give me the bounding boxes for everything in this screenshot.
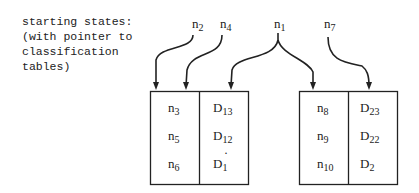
table1-class-cell: D12 — [213, 128, 232, 145]
table2-state-cell: n9 — [317, 128, 329, 145]
table2-class-cell: D22 — [360, 128, 379, 145]
arrow-n2 — [156, 35, 193, 86]
table2-state-cell: n10 — [317, 156, 334, 173]
diagram-graphics — [0, 0, 419, 193]
dot-mark: · — [224, 146, 228, 161]
arrow-n1-right — [278, 40, 313, 86]
table1-class-cell: D1· — [213, 156, 227, 173]
table2-class-cell: D2 — [360, 156, 374, 173]
table1-state-cell: n6 — [168, 156, 180, 173]
table1-state-cell: n5 — [168, 128, 180, 145]
arrow-n4 — [186, 35, 222, 86]
table1-class-cell: D13 — [213, 100, 232, 117]
table1-state-cell: n3 — [168, 100, 180, 117]
table2-state-cell: n8 — [317, 100, 329, 117]
arrow-n7 — [328, 37, 369, 86]
table2-class-cell: D23 — [360, 100, 379, 117]
arrow-n1-left — [231, 33, 278, 86]
